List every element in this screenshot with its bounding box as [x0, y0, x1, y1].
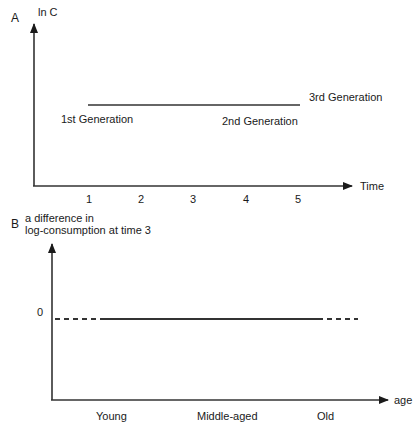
panel-a-tick-4: 4: [243, 193, 249, 205]
panel-b-x-label: age: [394, 394, 412, 406]
panel-a-axes: [33, 24, 352, 186]
panel-a-tick-5: 5: [295, 193, 301, 205]
panel-a-tick-1: 1: [86, 193, 92, 205]
panel-b-y-label-1: a difference in: [25, 212, 94, 224]
panel-b-axes: [51, 244, 388, 400]
panel-a-y-label: ln C: [38, 6, 58, 18]
panel-b-tick-young: Young: [96, 410, 127, 422]
panel-b-zero-label: 0: [37, 306, 43, 318]
gen3-label: 3rd Generation: [309, 91, 382, 103]
panel-a-tick-3: 3: [190, 193, 196, 205]
panel-a-x-label: Time: [360, 180, 384, 192]
panel-a-tick-2: 2: [138, 193, 144, 205]
panel-b-tick-old: Old: [317, 410, 334, 422]
panel-b-label: B: [11, 218, 19, 230]
gen1-label: 1st Generation: [61, 113, 133, 125]
gen2-label: 2nd Generation: [222, 115, 298, 127]
panel-a-label: A: [11, 12, 19, 24]
panel-b-tick-middle-aged: Middle-aged: [197, 410, 258, 422]
panel-b-y-label-2: log-consumption at time 3: [25, 224, 151, 236]
